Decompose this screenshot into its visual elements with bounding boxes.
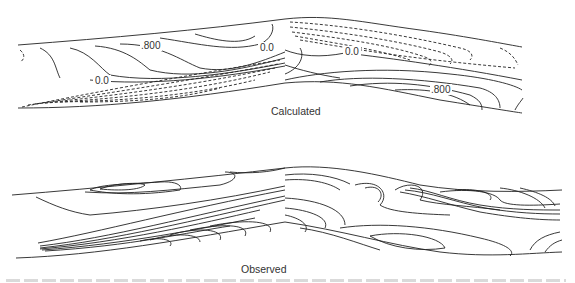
observed-caption: Observed <box>241 263 287 275</box>
contour-label-0800-right: .800 <box>431 84 451 95</box>
calculated-panel <box>18 17 523 113</box>
calculated-caption: Calculated <box>271 105 321 117</box>
contour-label-00-left: 0.0 <box>95 75 109 86</box>
truncated-figure-caption <box>6 279 566 282</box>
figure-canvas: .800 0.0 0.0 0.0 .800 <box>0 0 575 283</box>
contour-label-00-top: 0.0 <box>260 42 274 53</box>
observed-panel <box>12 167 562 258</box>
contour-label-0800-left: .800 <box>141 40 161 51</box>
contour-label-00-right: 0.0 <box>345 46 359 57</box>
